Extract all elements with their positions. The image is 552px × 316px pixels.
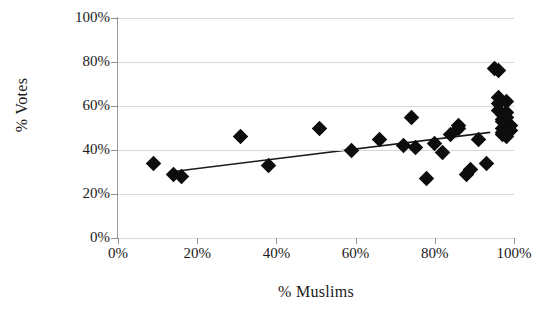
- y-axis-tick-labels: 0%20%40%60%80%100%: [48, 0, 110, 316]
- x-tick-label: 60%: [321, 246, 391, 261]
- plot-area: [118, 18, 514, 238]
- y-axis-tick: [111, 18, 118, 19]
- data-point: [403, 109, 419, 125]
- x-axis-tick: [197, 238, 198, 244]
- x-axis-tick: [276, 238, 277, 244]
- y-tick-label: 80%: [52, 54, 110, 69]
- data-point: [407, 140, 423, 156]
- data-point: [372, 131, 388, 147]
- x-tick-label: 80%: [400, 246, 470, 261]
- gridline-horizontal: [118, 238, 514, 239]
- x-axis-tick: [118, 238, 119, 244]
- x-axis-tick: [514, 238, 515, 244]
- y-tick-label: 40%: [52, 142, 110, 157]
- y-axis-tick: [111, 194, 118, 195]
- x-axis-tick: [435, 238, 436, 244]
- data-point: [233, 129, 249, 145]
- data-point: [419, 171, 435, 187]
- x-tick-label: 0%: [83, 246, 153, 261]
- data-point: [478, 155, 494, 171]
- gridline-horizontal: [118, 106, 514, 107]
- data-point: [312, 120, 328, 136]
- x-tick-label: 100%: [479, 246, 549, 261]
- y-tick-label: 60%: [52, 98, 110, 113]
- gridline-horizontal: [118, 194, 514, 195]
- x-axis-tick: [356, 238, 357, 244]
- scatter-chart: % Votes 0%20%40%60%80%100% % Muslims 0%2…: [0, 0, 552, 316]
- data-point: [344, 142, 360, 158]
- data-point: [471, 131, 487, 147]
- y-axis-tick: [111, 238, 118, 239]
- x-tick-label: 40%: [241, 246, 311, 261]
- gridline-horizontal: [118, 150, 514, 151]
- x-axis-title: % Muslims: [118, 283, 514, 301]
- data-point: [146, 155, 162, 171]
- y-tick-label: 0%: [52, 230, 110, 245]
- y-axis-tick: [111, 150, 118, 151]
- x-tick-label: 20%: [162, 246, 232, 261]
- data-point: [261, 158, 277, 174]
- y-axis-tick: [111, 62, 118, 63]
- y-axis-tick: [111, 106, 118, 107]
- y-axis-title: % Votes: [13, 45, 31, 165]
- y-tick-label: 20%: [52, 186, 110, 201]
- gridline-horizontal: [118, 18, 514, 19]
- y-tick-label: 100%: [52, 10, 110, 25]
- gridline-horizontal: [118, 62, 514, 63]
